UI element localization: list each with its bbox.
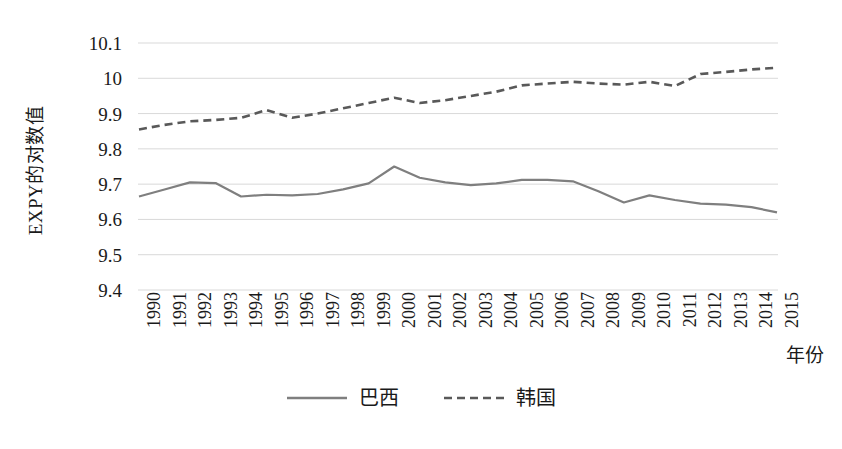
series-lines: [139, 68, 777, 213]
x-axis-tick-label: 2011: [681, 292, 699, 327]
x-axis-tick-label: 1996: [298, 292, 316, 328]
x-axis-tick-label: 1992: [196, 292, 214, 328]
x-axis-tick-label: 1999: [375, 292, 393, 328]
y-axis-tick-labels: 9.49.59.69.79.89.91010.1: [56, 0, 130, 449]
plot-svg: [138, 43, 778, 290]
legend-label: 巴西: [359, 388, 399, 408]
x-axis-tick-label: 2015: [783, 292, 801, 328]
gridlines: [138, 43, 778, 290]
line-chart: EXPY的对数值 9.49.59.69.79.89.91010.1 199019…: [0, 0, 842, 449]
x-axis-tick-label: 1998: [349, 292, 367, 328]
x-axis-tick-labels: 1990199119921993199419951996199719981999…: [138, 292, 778, 372]
x-axis-tick-label: 1995: [273, 292, 291, 328]
y-axis-tick-label: 9.4: [98, 281, 122, 300]
x-axis-tick-label: 1997: [324, 292, 342, 328]
plot-area: [138, 43, 778, 290]
x-axis-tick-label: 2006: [553, 292, 571, 328]
series-line-0: [139, 167, 777, 213]
y-axis-tick-label: 9.7: [98, 175, 122, 194]
series-line-1: [139, 68, 777, 130]
x-axis-tick-label: 2012: [706, 292, 724, 328]
x-axis-tick-label: 1994: [247, 292, 265, 328]
x-axis-tick-label: 2008: [604, 292, 622, 328]
x-axis-tick-label: 1993: [222, 292, 240, 328]
y-axis-tick-label: 10.1: [89, 34, 122, 53]
y-axis-tick-label: 9.9: [98, 104, 122, 123]
legend-label: 韩国: [516, 388, 556, 408]
y-axis-title: EXPY的对数值: [14, 60, 54, 280]
x-axis-tick-label: 2004: [502, 292, 520, 328]
x-axis-tick-label: 2000: [400, 292, 418, 328]
x-axis-tick-label: 2001: [426, 292, 444, 328]
x-axis-tick-label: 2003: [477, 292, 495, 328]
y-axis-title-label: EXPY的对数值: [21, 105, 48, 235]
x-axis-tick-label: 2013: [732, 292, 750, 328]
x-axis-tick-label: 2010: [655, 292, 673, 328]
legend-swatch-solid: [286, 391, 348, 405]
legend-swatch-dashed: [443, 391, 505, 405]
x-axis-tick-label: 2014: [757, 292, 775, 328]
x-axis-tick-label: 2002: [451, 292, 469, 328]
x-axis-tick-label: 2005: [528, 292, 546, 328]
x-axis-title: 年份: [786, 340, 824, 367]
y-axis-tick-label: 9.6: [98, 210, 122, 229]
x-axis-tick-label: 1991: [171, 292, 189, 328]
legend-entry-0[interactable]: 巴西: [286, 388, 399, 408]
chart-legend: 巴西韩国: [0, 388, 842, 408]
y-axis-tick-label: 9.5: [98, 245, 122, 264]
x-axis-tick-label: 2009: [630, 292, 648, 328]
y-axis-tick-label: 10: [103, 69, 122, 88]
y-axis-tick-label: 9.8: [98, 139, 122, 158]
x-axis-tick-label: 1990: [145, 292, 163, 328]
x-axis-tick-label: 2007: [579, 292, 597, 328]
legend-entry-1[interactable]: 韩国: [443, 388, 556, 408]
